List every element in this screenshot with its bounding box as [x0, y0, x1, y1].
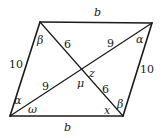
label-side-left: 10	[9, 58, 23, 71]
label-diag-tl-center: 6	[64, 38, 71, 51]
label-angle-bottom-right-lower: x	[104, 104, 111, 117]
label-diag-center-tr: 9	[107, 37, 114, 50]
label-side-top: b	[94, 6, 101, 19]
side-top	[40, 22, 152, 23]
parallelogram-diagram: b b 10 10 6 6 9 9 β α α ω β x z μ	[0, 0, 164, 138]
label-angle-bottom-right-upper: β	[116, 98, 123, 111]
label-side-bottom: b	[64, 121, 71, 134]
label-angle-center-right: z	[88, 67, 95, 80]
label-angle-bottom-left-lower: ω	[28, 103, 37, 116]
label-side-right: 10	[140, 63, 154, 76]
label-diag-bl-center: 9	[42, 80, 49, 93]
label-diag-center-br: 6	[102, 83, 109, 96]
label-angle-bottom-left-upper: α	[14, 94, 22, 107]
label-angle-center-bottom: μ	[77, 77, 84, 90]
label-angle-top-left: β	[36, 34, 43, 47]
label-angle-top-right: α	[136, 33, 144, 46]
